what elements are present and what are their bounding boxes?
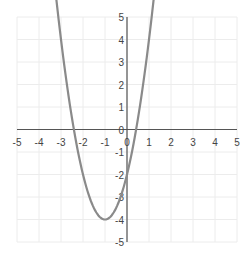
y-tick-label: 5 (118, 12, 124, 23)
y-tick-label: 0 (118, 125, 124, 136)
y-tick-label: -1 (115, 147, 124, 158)
y-tick-label: -4 (115, 215, 124, 226)
x-tick-label: 5 (234, 137, 240, 148)
x-tick-label: 3 (190, 137, 196, 148)
parabola-chart: -5-4-3-2-1012345 543210-1-2-3-4-5 (0, 0, 249, 266)
y-tick-label: 1 (118, 102, 124, 113)
x-tick-label: -5 (13, 137, 22, 148)
x-tick-label: -3 (57, 137, 66, 148)
axes (17, 17, 237, 242)
x-tick-label: -4 (35, 137, 44, 148)
y-tick-label: 4 (118, 35, 124, 46)
x-tick-label: 2 (168, 137, 174, 148)
y-tick-label: 2 (118, 80, 124, 91)
x-tick-labels: -5-4-3-2-1012345 (13, 137, 241, 148)
y-tick-label: -5 (115, 237, 124, 248)
x-tick-label: 4 (212, 137, 218, 148)
y-tick-label: -2 (115, 170, 124, 181)
y-tick-label: 3 (118, 57, 124, 68)
x-tick-label: 1 (146, 137, 152, 148)
x-tick-label: -1 (101, 137, 110, 148)
x-tick-label: 0 (124, 137, 130, 148)
x-tick-label: -2 (79, 137, 88, 148)
